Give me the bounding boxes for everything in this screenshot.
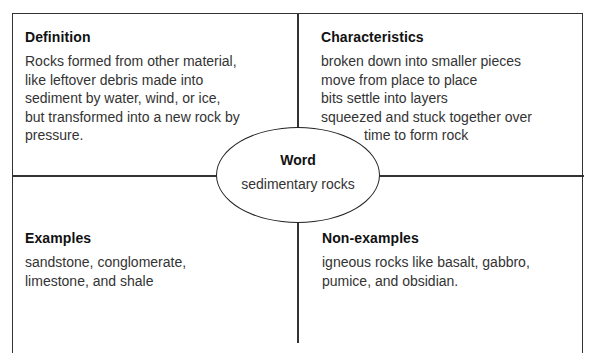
non-examples-line: igneous rocks like basalt, gabbro, xyxy=(322,253,582,272)
examples-line: sandstone, conglomerate, xyxy=(25,253,290,272)
definition-quadrant: Definition Rocks formed from other mater… xyxy=(25,29,290,145)
non-examples-heading: Non-examples xyxy=(322,230,582,246)
characteristic-item: move from place to place xyxy=(321,71,581,90)
non-examples-text: igneous rocks like basalt, gabbro, pumic… xyxy=(322,253,582,290)
definition-text: Rocks formed from other material, like l… xyxy=(25,52,290,145)
non-examples-line: pumice, and obsidian. xyxy=(322,272,582,291)
examples-quadrant: Examples sandstone, conglomerate, limest… xyxy=(25,230,290,290)
definition-line: sediment by water, wind, or ice, xyxy=(25,89,290,108)
definition-line: Rocks formed from other material, xyxy=(25,52,290,71)
characteristic-item-continued: time to form rock xyxy=(321,126,581,145)
characteristic-item: broken down into smaller pieces xyxy=(321,52,581,71)
examples-heading: Examples xyxy=(25,230,290,246)
non-examples-quadrant: Non-examples igneous rocks like basalt, … xyxy=(322,230,582,290)
characteristic-item: bits settle into layers xyxy=(321,89,581,108)
word-oval: Word sedimentary rocks xyxy=(216,127,380,223)
definition-line: but transformed into a new rock by xyxy=(25,108,290,127)
examples-text: sandstone, conglomerate, limestone, and … xyxy=(25,253,290,290)
characteristics-heading: Characteristics xyxy=(321,29,581,45)
examples-line: limestone, and shale xyxy=(25,272,290,291)
word-value: sedimentary rocks xyxy=(217,176,379,192)
definition-heading: Definition xyxy=(25,29,290,45)
characteristics-quadrant: Characteristics broken down into smaller… xyxy=(321,29,581,145)
characteristics-list: broken down into smaller pieces move fro… xyxy=(321,52,581,145)
definition-line: like leftover debris made into xyxy=(25,71,290,90)
word-heading: Word xyxy=(217,152,379,168)
characteristic-item: squeezed and stuck together over xyxy=(321,108,581,127)
